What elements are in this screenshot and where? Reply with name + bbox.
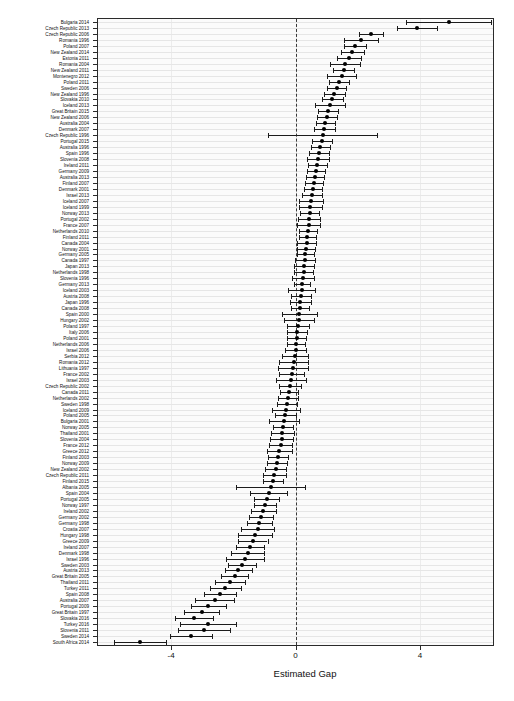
y-axis-tick-label: Serbia 2012 — [64, 353, 89, 358]
y-axis-tick-label: Sweden 2014 — [61, 634, 89, 639]
y-axis-tick-label: Iceland 2009 — [63, 407, 89, 412]
y-axis-tick-label: Norway 2013 — [62, 210, 89, 215]
interval-cap — [247, 521, 248, 526]
interval-cap — [287, 342, 288, 347]
interval-cap — [304, 372, 305, 377]
y-axis-tick-label: Spain 2000 — [66, 312, 89, 317]
interval-cap — [292, 276, 293, 281]
estimate-point — [308, 205, 312, 209]
interval-cap — [319, 211, 320, 216]
interval-cap — [248, 574, 249, 579]
estimate-point — [326, 109, 330, 113]
estimate-point — [251, 539, 255, 543]
interval-cap — [324, 92, 325, 97]
y-axis-tick-label: Spain 2004 — [66, 490, 89, 495]
interval-cap — [307, 330, 308, 335]
interval-cap — [300, 211, 301, 216]
interval-cap — [298, 390, 299, 395]
interval-cap — [316, 241, 317, 246]
estimate-point — [294, 348, 298, 352]
y-axis-tick-label: New Zealand 2014 — [50, 49, 89, 54]
interval-cap — [287, 330, 288, 335]
y-axis-tick-label: Ireland 2007 — [63, 544, 89, 549]
y-axis-tick-label: Norway 2009 — [62, 461, 89, 466]
y-axis-tick-label: Croatia 2007 — [63, 526, 89, 531]
interval-cap — [316, 121, 317, 126]
estimate-point — [335, 86, 339, 90]
y-axis-tick-label: Great Britain 2015 — [52, 109, 89, 114]
interval-cap — [305, 485, 306, 490]
estimate-point — [236, 568, 240, 572]
estimate-point — [243, 557, 247, 561]
y-axis-tick-label: Iceland 1999 — [63, 204, 89, 209]
estimate-point — [328, 103, 332, 107]
interval-cap — [286, 473, 287, 478]
y-axis-tick-label: Finland 2011 — [63, 234, 89, 239]
estimate-point — [343, 62, 347, 66]
y-axis-tick-label: Lithuania 1997 — [59, 365, 89, 370]
interval-cap — [276, 378, 277, 383]
y-axis-tick-label: Estonia 2011 — [63, 55, 89, 60]
y-axis-tick-label: Albania 2005 — [62, 485, 89, 490]
estimate-point — [298, 306, 302, 310]
interval-cap — [265, 467, 266, 472]
interval-cap — [263, 473, 264, 478]
interval-cap — [345, 92, 346, 97]
interval-cap — [254, 497, 255, 502]
interval-cap — [170, 634, 171, 639]
estimate-point — [303, 258, 307, 262]
interval-cap — [315, 247, 316, 252]
interval-cap — [329, 157, 330, 162]
estimate-point — [320, 139, 324, 143]
interval-cap — [215, 580, 216, 585]
interval-cap — [175, 616, 176, 621]
interval-cap — [315, 258, 316, 263]
y-axis-tick-label: Slovakia 2010 — [60, 97, 89, 102]
y-axis-tick-label: New Zealand 2002 — [50, 467, 89, 472]
x-axis-tick — [171, 646, 172, 650]
y-axis-tick-label: Germany 2002 — [59, 514, 89, 519]
estimate-point — [275, 461, 279, 465]
y-axis-tick-label: Netherlands 2010 — [53, 228, 89, 233]
estimate-point — [253, 533, 257, 537]
interval-cap — [279, 384, 280, 389]
interval-cap — [263, 479, 264, 484]
estimate-point — [138, 640, 142, 644]
interval-cap — [270, 437, 271, 442]
interval-cap — [195, 598, 196, 603]
interval-cap — [378, 38, 379, 43]
interval-cap — [252, 568, 253, 573]
y-axis-tick-label: Slovakia 2016 — [60, 616, 89, 621]
interval-cap — [295, 258, 296, 263]
estimate-point — [312, 181, 316, 185]
interval-cap — [309, 151, 310, 156]
estimate-point — [295, 336, 299, 340]
interval-cap — [360, 62, 361, 67]
interval-cap — [311, 145, 312, 150]
y-axis-tick-label: Czech Republic 2011 — [46, 473, 89, 478]
y-axis-tick-label: Germany 2013 — [59, 282, 89, 287]
interval-cap — [280, 390, 281, 395]
interval-cap — [299, 229, 300, 234]
estimate-point — [248, 545, 252, 549]
y-axis-tick-label: France 2007 — [63, 222, 89, 227]
y-axis-tick-label: South Africa 2014 — [53, 640, 89, 645]
interval-cap — [314, 252, 315, 257]
interval-cap — [313, 270, 314, 275]
estimate-point — [265, 497, 269, 501]
y-axis-tick-label: Portugal 2005 — [60, 496, 89, 501]
y-axis-tick-label: Portugal 2009 — [60, 604, 89, 609]
x-axis-tick-label: 0 — [293, 651, 297, 660]
y-axis-tick-label: Greece 2009 — [62, 538, 89, 543]
y-axis-tick-label: Finland 2003 — [62, 455, 89, 460]
interval-cap — [308, 360, 309, 365]
estimate-point — [213, 598, 217, 602]
interval-cap — [297, 247, 298, 252]
interval-cap — [316, 235, 317, 240]
interval-cap — [317, 312, 318, 317]
interval-cap — [330, 62, 331, 67]
y-axis-tick-label: Hungary 1998 — [60, 532, 89, 537]
interval-cap — [309, 306, 310, 311]
y-axis-tick-label: Thailand 2001 — [60, 431, 89, 436]
y-axis-tick-label: Australia 2004 — [60, 121, 89, 126]
